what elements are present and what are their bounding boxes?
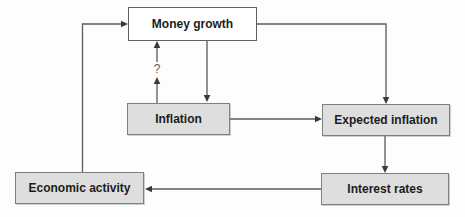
edge-money-growth-to-expected-inflation bbox=[257, 24, 389, 104]
diagram-canvas: Money growth Inflation Expected inflatio… bbox=[0, 0, 465, 217]
edge-expected-inflation-to-interest-rates bbox=[382, 136, 389, 173]
edge-money-growth-to-inflation bbox=[204, 41, 211, 102]
node-expected-inflation: Expected inflation bbox=[322, 104, 450, 136]
node-inflation: Inflation bbox=[127, 103, 230, 135]
arrowhead-up-mid-icon bbox=[154, 77, 161, 84]
node-interest-rates: Interest rates bbox=[321, 173, 449, 205]
arrowhead-right-icon bbox=[121, 21, 128, 28]
arrowhead-down-icon bbox=[383, 97, 390, 104]
node-inflation-label: Inflation bbox=[155, 112, 202, 126]
arrowhead-right-icon bbox=[315, 116, 322, 123]
node-money-growth-label: Money growth bbox=[152, 17, 233, 31]
node-economic-activity-label: Economic activity bbox=[28, 181, 130, 195]
edge-inflation-to-expected-inflation bbox=[230, 116, 322, 123]
node-interest-rates-label: Interest rates bbox=[347, 182, 422, 196]
arrowhead-down-icon bbox=[382, 166, 389, 173]
arrowhead-down-icon bbox=[204, 95, 211, 102]
uncertainty-question-mark-label: ? bbox=[150, 62, 164, 76]
node-economic-activity: Economic activity bbox=[15, 172, 144, 204]
arrowhead-up-icon bbox=[154, 41, 161, 48]
node-expected-inflation-label: Expected inflation bbox=[334, 113, 437, 127]
arrowhead-left-icon bbox=[145, 186, 152, 193]
edge-economic-activity-to-money-growth bbox=[83, 21, 129, 172]
node-money-growth: Money growth bbox=[128, 7, 257, 41]
edge-interest-rates-to-economic-activity bbox=[145, 186, 321, 193]
